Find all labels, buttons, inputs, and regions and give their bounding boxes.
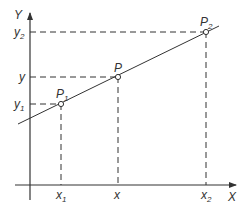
point-p (115, 74, 120, 79)
line-through-two-points-diagram: Y X y2 y y1 x1 x x2 P1 P P2 (0, 0, 249, 212)
y-axis-label: Y (14, 8, 23, 22)
diagram-canvas: Y X y2 y y1 x1 x x2 P1 P P2 (0, 0, 249, 212)
x-label: x (113, 188, 121, 202)
y1-label: y1 (13, 97, 24, 113)
p2-label: P2 (200, 15, 213, 31)
x1-label: x1 (55, 188, 66, 204)
p1-label: P1 (56, 87, 68, 103)
x-axis-label: X (227, 190, 237, 204)
x2-label: x2 (200, 188, 212, 204)
y-label: y (18, 70, 26, 84)
point-p1 (58, 101, 63, 106)
y2-label: y2 (13, 25, 25, 41)
p-label: P (114, 61, 122, 75)
